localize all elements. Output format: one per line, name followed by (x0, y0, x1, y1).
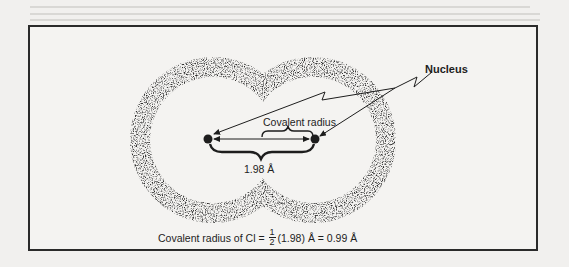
covalent-radius-label: Covalent radius (263, 116, 336, 128)
bond-length-label: 1.98 Å (244, 163, 274, 175)
electron-cloud (120, 50, 410, 235)
nucleus-label: Nucleus (425, 63, 468, 75)
right-nucleus (311, 135, 320, 144)
formula-suffix: (1.98) Å = 0.99 Å (278, 232, 358, 244)
covalent-radius-formula: Covalent radius of Cl = 1 2 (1.98) Å = 0… (158, 228, 357, 247)
left-nucleus (204, 135, 213, 144)
formula-prefix: Covalent radius of Cl = (158, 232, 265, 244)
fraction-one-half: 1 2 (269, 228, 276, 247)
fraction-denominator: 2 (270, 238, 275, 247)
cl2-molecule-diagram (0, 0, 569, 267)
